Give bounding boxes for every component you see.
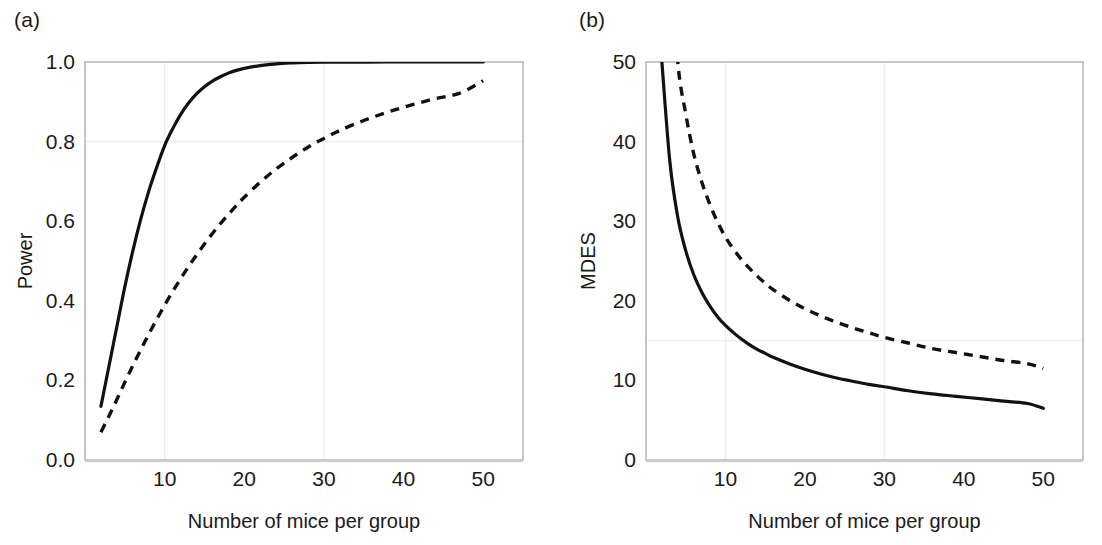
y-tick-label: 50 <box>613 50 636 73</box>
y-tick-label: 0.2 <box>46 368 75 391</box>
panel-b: (b) 102030405001020304050Number of mice … <box>551 0 1102 545</box>
y-tick-label: 0 <box>624 448 636 471</box>
x-tick-label: 30 <box>873 467 896 490</box>
y-tick-label: 1.0 <box>46 50 75 73</box>
y-tick-label: 10 <box>613 368 636 391</box>
y-tick-label: 0.6 <box>46 209 75 232</box>
y-tick-label: 0.4 <box>46 289 76 312</box>
x-tick-label: 40 <box>392 467 415 490</box>
figure-container: (a) 10203040500.00.20.40.60.81.0Number o… <box>0 0 1102 545</box>
y-axis-title: MDES <box>577 232 599 290</box>
y-tick-label: 30 <box>613 209 636 232</box>
x-tick-label: 20 <box>233 467 256 490</box>
y-tick-label: 20 <box>613 289 636 312</box>
plot-frame <box>646 62 1083 460</box>
curves-group <box>101 62 483 432</box>
x-axis-title: Number of mice per group <box>188 510 420 532</box>
x-tick-label: 10 <box>714 467 737 490</box>
y-axis-title: Power <box>14 232 36 289</box>
x-tick-label: 40 <box>952 467 975 490</box>
y-tick-label: 40 <box>613 130 636 153</box>
curve-solid <box>101 62 483 406</box>
x-axis-title: Number of mice per group <box>748 510 980 532</box>
y-tick-label: 0.0 <box>46 448 75 471</box>
x-tick-label: 10 <box>153 467 176 490</box>
x-tick-label: 30 <box>312 467 335 490</box>
panel-a: (a) 10203040500.00.20.40.60.81.0Number o… <box>0 0 551 545</box>
x-tick-label: 50 <box>472 467 495 490</box>
x-tick-label: 20 <box>793 467 816 490</box>
plot-frame <box>85 62 523 460</box>
x-tick-label: 50 <box>1032 467 1055 490</box>
curve-dashed <box>662 0 1043 368</box>
panel-b-chart: 102030405001020304050Number of mice per … <box>551 0 1102 545</box>
curve-dashed <box>101 81 483 432</box>
panel-a-chart: 10203040500.00.20.40.60.81.0Number of mi… <box>0 0 551 545</box>
y-tick-label: 0.8 <box>46 130 75 153</box>
